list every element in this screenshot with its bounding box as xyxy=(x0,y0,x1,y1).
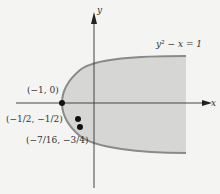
point-label-seven-sixteenths: (−7/16, −3/4) xyxy=(26,136,89,145)
y-axis-label: y xyxy=(97,6,102,15)
point-vertex xyxy=(59,100,65,106)
x-axis-label: x xyxy=(211,99,216,108)
diagram-canvas: y x y² − x = 1 (−1, 0) (−1/2, −1/2) (−7/… xyxy=(0,0,220,194)
point-label-half: (−1/2, −1/2) xyxy=(6,115,63,124)
parabola-plot xyxy=(0,0,220,194)
point-label-vertex: (−1, 0) xyxy=(27,86,59,95)
point-half xyxy=(75,116,81,122)
point-seven-sixteenths xyxy=(77,124,83,130)
equation-label: y² − x = 1 xyxy=(156,40,202,49)
